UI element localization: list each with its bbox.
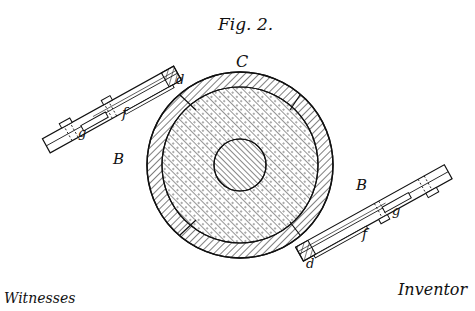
figure-title: Fig. 2. (218, 14, 273, 34)
label-g-left: g (78, 125, 86, 140)
label-f-right: f (362, 226, 367, 242)
witnesses-label: Witnesses (4, 290, 75, 306)
inventor-label: Inventor (398, 280, 467, 299)
label-d-left: d (176, 72, 184, 87)
label-d-right: d (306, 256, 314, 271)
label-g-right: g (392, 203, 400, 218)
label-b-right: B (356, 176, 367, 194)
label-f-left: f (122, 105, 127, 121)
wheel-cross-section (147, 72, 333, 258)
patent-figure (0, 0, 475, 311)
label-b-left: B (113, 150, 124, 168)
label-c: C (236, 52, 248, 71)
